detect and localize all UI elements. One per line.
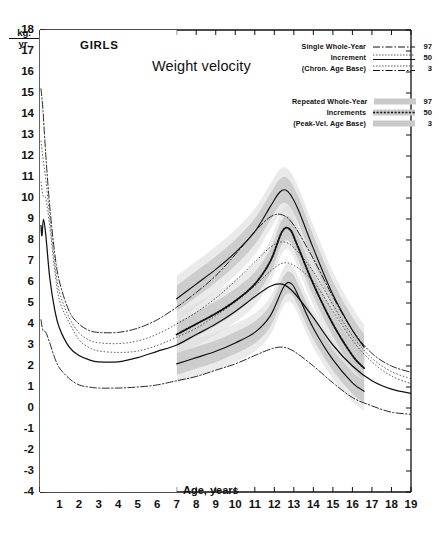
x-axis-tick-label: 13 <box>284 499 304 511</box>
legend-row: (Peak-Vel. Age Base) 3 <box>292 118 432 129</box>
legend-key-band-97 <box>372 96 417 107</box>
x-axis-tick-label: 18 <box>381 499 401 511</box>
x-axis-tick-label: 10 <box>225 499 245 511</box>
legend-label: (Peak-Vel. Age Base) <box>293 119 366 128</box>
legend-row: Repeated Whole-Year 97 <box>292 96 432 107</box>
x-axis-tick-label: 15 <box>323 499 343 511</box>
x-axis-tick-label: 6 <box>147 499 167 511</box>
subject-label: GIRLS <box>80 39 119 51</box>
y-axis-tick-label: 10 <box>6 192 34 204</box>
y-axis-tick-label: -3 <box>6 465 34 477</box>
legend-key-dashdot-97 <box>371 41 417 52</box>
y-axis-tick-label: 15 <box>6 87 34 99</box>
y-axis-tick-label: 3 <box>6 339 34 351</box>
x-axis-tick-label: 9 <box>206 499 226 511</box>
legend-key-dashdot-3 <box>371 63 417 74</box>
y-axis-tick-label: 9 <box>6 213 34 225</box>
x-axis-tick-label: 19 <box>401 499 421 511</box>
x-axis-tick-label: 5 <box>128 499 148 511</box>
legend-value: 97 <box>419 42 432 51</box>
y-axis-tick-label: 6 <box>6 276 34 288</box>
y-axis-tick-label: 11 <box>6 171 34 183</box>
legend-label: (Chron. Age Base) <box>302 64 366 73</box>
legend-value: 3 <box>419 119 432 128</box>
legend-key-band-3 <box>371 118 417 129</box>
legend-single-increment: Single Whole-Year 97 Increment 50 (Chron… <box>292 41 432 74</box>
x-axis-tick-label: 7 <box>167 499 187 511</box>
y-axis-tick-label: 2 <box>6 360 34 372</box>
legend-label: Single Whole-Year <box>302 42 366 51</box>
weight-velocity-chart: kg. yr. GIRLS Weight velocity Age, years… <box>0 0 439 545</box>
chart-title: Weight velocity <box>152 58 251 74</box>
y-axis-tick-label: 12 <box>6 150 34 162</box>
legend-key-band-dotted-50 <box>371 107 417 118</box>
y-axis-tick-label: 17 <box>6 45 34 57</box>
legend-value: 3 <box>419 64 432 73</box>
y-axis-tick-label: -4 <box>6 486 34 498</box>
legend-value: 97 <box>419 97 432 106</box>
legend-row: Single Whole-Year 97 <box>292 41 432 52</box>
legend-row: (Chron. Age Base) 3 <box>292 63 432 74</box>
chart-plot-area <box>0 0 439 545</box>
y-axis-tick-label: 18 <box>6 24 34 36</box>
y-axis-tick-label: 16 <box>6 66 34 78</box>
x-axis-tick-label: 8 <box>186 499 206 511</box>
y-axis-tick-label: 7 <box>6 255 34 267</box>
y-axis-tick-label: 0 <box>6 402 34 414</box>
legend-label: Increment <box>331 53 366 62</box>
legend-label: Repeated Whole-Year <box>292 97 367 106</box>
x-axis-tick-label: 3 <box>89 499 109 511</box>
y-axis-tick-label: -2 <box>6 444 34 456</box>
y-axis-tick-label: 5 <box>6 297 34 309</box>
x-axis-tick-label: 11 <box>245 499 265 511</box>
x-axis-tick-label: 14 <box>303 499 323 511</box>
legend-key-solid-50 <box>371 52 417 63</box>
x-axis-tick-label: 16 <box>342 499 362 511</box>
legend-value: 50 <box>419 108 432 117</box>
y-axis-tick-label: 8 <box>6 234 34 246</box>
legend-row: Increment 50 <box>292 52 432 63</box>
x-axis-tick-label: 12 <box>264 499 284 511</box>
legend-repeated-increments: Repeated Whole-Year 97 Increments 50 (Pe… <box>292 96 432 129</box>
y-axis-tick-label: 1 <box>6 381 34 393</box>
x-axis-tick-label: 2 <box>69 499 89 511</box>
x-axis-tick-label: 17 <box>362 499 382 511</box>
legend-value: 50 <box>419 53 432 62</box>
y-axis-tick-label: 4 <box>6 318 34 330</box>
y-axis-tick-label: 13 <box>6 129 34 141</box>
legend-label: Increments <box>327 108 366 117</box>
x-axis-tick-label: 1 <box>50 499 70 511</box>
x-axis-title: Age, years <box>183 484 239 496</box>
y-axis-tick-label: 14 <box>6 108 34 120</box>
legend-row: Increments 50 <box>292 107 432 118</box>
y-axis-tick-label: -1 <box>6 423 34 435</box>
x-axis-tick-label: 4 <box>108 499 128 511</box>
